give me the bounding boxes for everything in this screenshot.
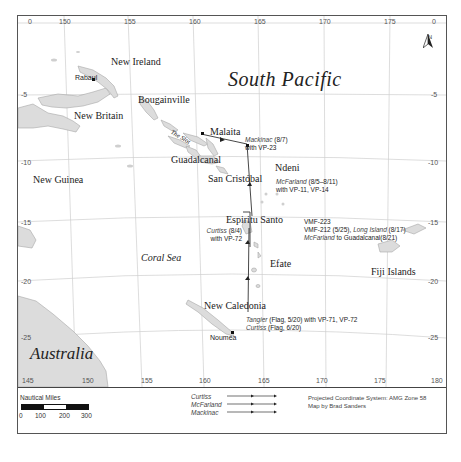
- mackinac-date: (8/7): [272, 136, 287, 143]
- tick-top-155: 155: [124, 18, 136, 25]
- curtiss-flag-details: (Flag, 6/20): [266, 324, 301, 331]
- route-name-curtiss: Curtiss: [191, 393, 227, 400]
- label-espiritu-santo: Espiritu Santo: [226, 214, 283, 225]
- tick-right-25: -25: [428, 334, 438, 341]
- route-legend-mcfarland: McFarland: [191, 400, 277, 408]
- map-credits: Projected Coordinate System: AMG Zone 58…: [308, 394, 426, 410]
- label-new-britain: New Britain: [74, 110, 123, 121]
- tick-bottom-170: 170: [316, 377, 328, 384]
- label-san-cristobal: San Cristóbal: [208, 173, 262, 184]
- label-bougainville: Bougainville: [138, 94, 190, 105]
- tick-left-20: -20: [21, 278, 31, 285]
- tick-left-25: -25: [21, 334, 31, 341]
- label-new-caledonia: New Caledonia: [204, 300, 266, 311]
- tick-bottom-180: 180: [431, 377, 443, 384]
- tick-top-160: 160: [189, 18, 201, 25]
- label-efate: Efate: [270, 258, 291, 269]
- curtiss-date: (8/4): [227, 227, 242, 234]
- label-new-guinea: New Guinea: [33, 174, 83, 185]
- ship-mcfarland-2: McFarland: [304, 234, 335, 241]
- route-legend-curtiss: Curtiss: [191, 392, 277, 400]
- ship-curtiss: Curtiss: [207, 227, 227, 234]
- annotation-curtiss: Curtiss (8/4) with VP-72: [207, 227, 242, 243]
- tick-top-150: 150: [59, 18, 71, 25]
- mcfarland-squadrons: with VP-11, VP-14: [276, 186, 338, 194]
- label-new-ireland: New Ireland: [111, 56, 161, 67]
- route-name-mackinac: Mackinac: [191, 409, 227, 416]
- tick-bottom-160: 160: [199, 377, 211, 384]
- tick-left-15: -15: [21, 219, 31, 226]
- tick-bottom-155: 155: [141, 377, 153, 384]
- mcfarland-to-guadalcanal: to Guadalcanal(8/21): [335, 234, 398, 241]
- tick-right-5: -5: [431, 91, 437, 98]
- route-line-arrow-icon: [227, 401, 277, 407]
- scale-tick-100: 100: [35, 412, 46, 419]
- vmf-212: VMF-212 (5/25),: [304, 226, 353, 233]
- label-australia: Australia: [30, 344, 93, 364]
- map-area: 0 150 155 160 165 170 175 0 -5 -10 -15 -…: [18, 16, 446, 387]
- tick-right-20: -20: [428, 278, 438, 285]
- mackinac-squadron: with VP-23: [245, 144, 288, 152]
- tick-bottom-165: 165: [258, 377, 270, 384]
- projection-text: Projected Coordinate System: AMG Zone 58: [308, 394, 426, 402]
- annotation-mackinac: Mackinac (8/7) with VP-23: [245, 136, 288, 152]
- legend: Nautical Miles 0 100 200 300 Curtiss McF…: [18, 387, 446, 434]
- label-ndeni: Ndeni: [275, 162, 299, 173]
- tick-left-5: -5: [21, 91, 27, 98]
- credit-text: Map by Brad Sanders: [308, 402, 426, 410]
- tick-bottom-175: 175: [374, 377, 386, 384]
- label-guadalcanal: Guadalcanal: [171, 154, 221, 165]
- scale-tick-200: 200: [59, 412, 70, 419]
- tick-top-165: 165: [254, 18, 266, 25]
- tangier-details: (Flag, 5/20) with VP-71, VP-72: [267, 316, 357, 323]
- ship-mcfarland: McFarland: [276, 178, 307, 185]
- north-arrow-icon: [423, 34, 433, 48]
- ship-curtiss-2: Curtiss: [246, 324, 266, 331]
- label-coral-sea: Coral Sea: [141, 252, 181, 263]
- tick-bottom-145: 145: [22, 377, 34, 384]
- scale-title: Nautical Miles: [20, 394, 60, 401]
- map-title: South Pacific: [228, 68, 342, 91]
- tick-left-10: -10: [21, 159, 31, 166]
- annotation-noumea: Tangier (Flag, 5/20) with VP-71, VP-72 C…: [246, 316, 357, 332]
- route-arrows: [220, 137, 252, 280]
- tick-top-0-right: 0: [432, 18, 436, 25]
- long-island-date: (8/17): [387, 226, 406, 233]
- vmf-223: VMF-223: [304, 218, 406, 226]
- route-legend-mackinac: Mackinac: [191, 408, 277, 416]
- label-malaita: Malaita: [210, 126, 241, 137]
- label-fiji-islands: Fiji Islands: [371, 266, 416, 277]
- annotation-mcfarland: McFarland (8/5–8/11) with VP-11, VP-14: [276, 178, 338, 194]
- label-rabaul: Rabaul: [75, 74, 97, 81]
- tick-top-170: 170: [319, 18, 331, 25]
- ship-tangier: Tangier: [246, 316, 267, 323]
- tick-top-175: 175: [384, 18, 396, 25]
- ship-mackinac: Mackinac: [245, 136, 272, 143]
- tick-right-10: -10: [428, 159, 438, 166]
- scale-tick-0: 0: [19, 412, 23, 419]
- route-line-arrow-icon: [227, 393, 277, 399]
- tick-top-0: 0: [28, 18, 32, 25]
- tick-right-15: -15: [428, 219, 438, 226]
- tick-bottom-150: 150: [82, 377, 94, 384]
- scale-bar: [21, 404, 89, 410]
- route-line-arrow-icon: [227, 409, 277, 415]
- ship-long-island: Long Island: [353, 226, 387, 233]
- curtiss-squadron: with VP-72: [207, 235, 242, 243]
- map-frame: 0 150 155 160 165 170 175 0 -5 -10 -15 -…: [17, 15, 447, 434]
- label-noumea: Nouméa: [210, 334, 236, 341]
- route-legend: Curtiss McFarland Mackinac: [191, 392, 277, 416]
- mcfarland-date: (8/5–8/11): [307, 178, 338, 185]
- annotation-espiritu-santo-units: VMF-223 VMF-212 (5/25), Long Island (8/1…: [304, 218, 406, 242]
- route-name-mcfarland: McFarland: [191, 401, 227, 408]
- scale-tick-300: 300: [81, 412, 92, 419]
- compass: N: [423, 34, 437, 40]
